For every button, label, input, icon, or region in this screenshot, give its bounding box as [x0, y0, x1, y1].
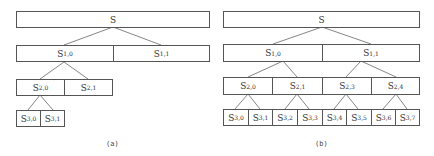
- node-s-3-0: S3,0: [223, 109, 249, 126]
- node-s-2-0: S2,0: [16, 79, 65, 96]
- node-subscript: 1,0: [271, 50, 281, 57]
- node-subscript: 3,3: [308, 114, 318, 121]
- node-s-2-4: S2,4: [371, 77, 420, 95]
- node-subscript: 3,2: [283, 114, 293, 121]
- node-s-3-1: S3,1: [248, 109, 273, 126]
- node-s-1-1: S1,1: [113, 45, 210, 62]
- node-subscript: 3,0: [234, 114, 244, 121]
- node-subscript: 2,3: [345, 83, 355, 90]
- node-subscript: 2,0: [246, 83, 256, 90]
- node-s-2-1: S2,1: [64, 79, 113, 96]
- node-s-3-7: S3,7: [395, 109, 420, 126]
- node-subscript: 2,4: [394, 83, 404, 90]
- node-subscript: 3,5: [357, 114, 367, 121]
- node-label: S: [110, 15, 116, 25]
- node-s-3-6: S3,6: [371, 109, 396, 126]
- node-s-1-1: S1,1: [322, 44, 420, 62]
- node-s-2-3: S2,3: [322, 77, 372, 95]
- node-subscript: 1,1: [369, 50, 379, 57]
- node-subscript: 2,1: [87, 84, 97, 91]
- node-s-3-1: S3,1: [40, 110, 65, 127]
- node-subscript: 2,1: [296, 83, 306, 90]
- node-s-2-1: S2,1: [272, 77, 323, 95]
- node-s-3-2: S3,2: [272, 109, 298, 126]
- node-s-3-0: S3,0: [16, 110, 41, 127]
- node-subscript: 1,0: [63, 50, 73, 57]
- node-s-3-4: S3,4: [322, 109, 347, 126]
- node-subscript: 3,6: [382, 114, 392, 121]
- node-subscript: 2,0: [39, 84, 49, 91]
- caption-a: (a): [106, 140, 119, 148]
- node-subscript: 3,0: [27, 115, 37, 122]
- node-s-1-0: S1,0: [223, 44, 323, 62]
- node-subscript: 1,1: [160, 50, 170, 57]
- caption-b: (b): [315, 140, 328, 148]
- node-s-2-0: S2,0: [223, 77, 273, 95]
- node-subscript: 3,1: [259, 114, 269, 121]
- node-s-1-0: S1,0: [16, 45, 114, 62]
- node-subscript: 3,1: [51, 115, 61, 122]
- node-s-3-3: S3,3: [297, 109, 323, 126]
- node-s: S: [16, 11, 210, 28]
- node-s: S: [223, 11, 420, 28]
- node-subscript: 3,7: [406, 114, 416, 121]
- node-s-3-5: S3,5: [346, 109, 372, 126]
- node-label: S: [318, 15, 324, 25]
- node-subscript: 3,4: [333, 114, 343, 121]
